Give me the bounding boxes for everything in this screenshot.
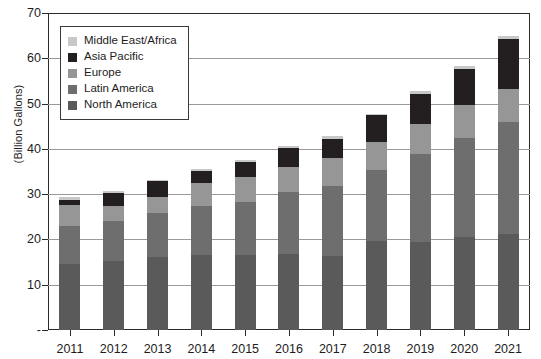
bar-segment-asia-pacific[interactable] xyxy=(235,162,256,176)
x-axis-labels: 2011201220132014201520162017201820192020… xyxy=(48,330,530,359)
bar-segment-europe[interactable] xyxy=(366,142,387,170)
y-tick-label: 30 xyxy=(27,187,41,201)
legend-swatch-icon xyxy=(68,53,77,62)
bar-segment-north-america[interactable] xyxy=(410,242,431,330)
bar-segment-europe[interactable] xyxy=(278,167,299,192)
legend-item-asia-pacific[interactable]: Asia Pacific xyxy=(68,49,177,65)
bar-segment-latin-america[interactable] xyxy=(454,138,475,237)
bar-segment-north-america[interactable] xyxy=(235,255,256,330)
bar-column-2021[interactable] xyxy=(486,13,529,330)
legend-swatch-icon xyxy=(68,37,77,46)
y-tick-label: 10 xyxy=(27,278,41,292)
bar-stack xyxy=(454,66,475,330)
bar-segment-latin-america[interactable] xyxy=(498,122,519,234)
bar-column-2019[interactable] xyxy=(399,13,442,330)
bar-segment-latin-america[interactable] xyxy=(147,213,168,257)
legend-label: North America xyxy=(84,99,157,111)
x-tick-label-2011: 2011 xyxy=(48,330,91,359)
bar-segment-north-america[interactable] xyxy=(147,257,168,330)
bar-segment-europe[interactable] xyxy=(322,158,343,186)
legend-item-middle-east-africa[interactable]: Middle East/Africa xyxy=(68,33,177,49)
bar-stack xyxy=(59,197,80,330)
bar-segment-asia-pacific[interactable] xyxy=(366,115,387,142)
y-axis-title: (Billion Gallons) xyxy=(12,54,24,194)
legend-label: Asia Pacific xyxy=(84,51,143,63)
bar-segment-asia-pacific[interactable] xyxy=(410,94,431,125)
y-tick-label: 70 xyxy=(27,6,41,20)
x-axis: 2011201220132014201520162017201820192020… xyxy=(48,330,530,359)
bar-segment-asia-pacific[interactable] xyxy=(103,193,124,206)
legend-swatch-icon xyxy=(68,69,77,78)
bar-segment-latin-america[interactable] xyxy=(410,154,431,242)
chart-legend: Middle East/AfricaAsia PacificEuropeLati… xyxy=(60,26,189,120)
bar-segment-europe[interactable] xyxy=(103,206,124,221)
legend-label: Europe xyxy=(84,67,121,79)
bar-segment-north-america[interactable] xyxy=(322,256,343,330)
bar-stack xyxy=(278,146,299,330)
bar-column-2015[interactable] xyxy=(223,13,266,330)
bar-segment-europe[interactable] xyxy=(191,183,212,206)
x-tick-label-2013: 2013 xyxy=(136,330,179,359)
bar-segment-latin-america[interactable] xyxy=(322,186,343,256)
bar-stack xyxy=(191,169,212,330)
x-tick-label-2014: 2014 xyxy=(180,330,223,359)
bar-stack xyxy=(410,91,431,331)
bar-column-2020[interactable] xyxy=(443,13,486,330)
y-tick-label: 60 xyxy=(27,51,41,65)
x-tick-label-2017: 2017 xyxy=(311,330,354,359)
bar-segment-north-america[interactable] xyxy=(366,241,387,330)
bar-stack xyxy=(147,180,168,330)
bar-segment-latin-america[interactable] xyxy=(191,206,212,255)
legend-item-latin-america[interactable]: Latin America xyxy=(68,81,177,97)
stacked-bar-chart: (Billion Gallons) -10203040506070 201120… xyxy=(0,0,541,359)
bar-segment-north-america[interactable] xyxy=(103,261,124,330)
legend-label: Middle East/Africa xyxy=(84,35,177,47)
bar-segment-latin-america[interactable] xyxy=(103,221,124,261)
bar-segment-asia-pacific[interactable] xyxy=(454,69,475,105)
bar-stack xyxy=(235,160,256,330)
bar-segment-europe[interactable] xyxy=(235,177,256,202)
bar-segment-north-america[interactable] xyxy=(454,237,475,330)
x-tick-label-2020: 2020 xyxy=(443,330,486,359)
x-tick-label-2018: 2018 xyxy=(355,330,398,359)
legend-swatch-icon xyxy=(68,85,77,94)
bar-segment-europe[interactable] xyxy=(498,89,519,122)
bar-stack xyxy=(103,191,124,330)
y-tick-label: - xyxy=(37,323,41,337)
y-tick-label: 50 xyxy=(27,97,41,111)
bar-column-2018[interactable] xyxy=(355,13,398,330)
x-tick-label-2012: 2012 xyxy=(92,330,135,359)
legend-item-europe[interactable]: Europe xyxy=(68,65,177,81)
legend-label: Latin America xyxy=(84,83,154,95)
bar-segment-asia-pacific[interactable] xyxy=(322,139,343,158)
y-tick-label: 40 xyxy=(27,142,41,156)
bar-segment-asia-pacific[interactable] xyxy=(191,171,212,183)
x-tick-label-2015: 2015 xyxy=(223,330,266,359)
bar-segment-asia-pacific[interactable] xyxy=(278,148,299,166)
bar-stack xyxy=(322,136,343,330)
x-tick-label-2016: 2016 xyxy=(267,330,310,359)
x-tick-label-2019: 2019 xyxy=(399,330,442,359)
x-tick-label-2021: 2021 xyxy=(486,330,529,359)
bar-column-2017[interactable] xyxy=(311,13,354,330)
y-tick-label: 20 xyxy=(27,232,41,246)
bar-segment-latin-america[interactable] xyxy=(366,170,387,242)
bar-segment-europe[interactable] xyxy=(454,105,475,139)
legend-swatch-icon xyxy=(68,101,77,110)
bar-segment-north-america[interactable] xyxy=(59,264,80,330)
bar-segment-asia-pacific[interactable] xyxy=(498,39,519,88)
bar-segment-north-america[interactable] xyxy=(498,234,519,330)
bar-segment-europe[interactable] xyxy=(410,124,431,154)
bar-segment-latin-america[interactable] xyxy=(235,202,256,255)
bar-stack xyxy=(366,114,387,330)
bar-segment-north-america[interactable] xyxy=(278,254,299,330)
bar-segment-north-america[interactable] xyxy=(191,255,212,330)
bar-column-2016[interactable] xyxy=(267,13,310,330)
bar-stack xyxy=(498,36,519,330)
bar-segment-europe[interactable] xyxy=(59,205,80,225)
bar-segment-europe[interactable] xyxy=(147,197,168,213)
bar-segment-latin-america[interactable] xyxy=(278,192,299,254)
bar-segment-latin-america[interactable] xyxy=(59,226,80,264)
bar-segment-asia-pacific[interactable] xyxy=(147,181,168,196)
legend-item-north-america[interactable]: North America xyxy=(68,97,177,113)
